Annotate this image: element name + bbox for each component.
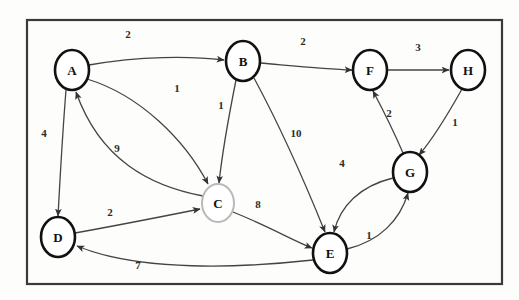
node-label-C: C: [213, 196, 222, 211]
node-label-E: E: [326, 246, 335, 261]
edge-weight-A-D: 4: [41, 127, 47, 139]
edge-weight-A-B: 2: [125, 28, 131, 40]
graph-edge-E-G: [347, 193, 408, 249]
graph-edge-G-E: [334, 178, 393, 232]
edge-weight-A-C: 1: [174, 82, 180, 94]
graph-edge-A-D: [58, 90, 66, 216]
node-label-A: A: [67, 63, 77, 78]
graph-svg: ABCDEFGH 2141102982714231: [0, 0, 519, 300]
graph-edge-A-C: [87, 79, 208, 184]
nodes-layer: ABCDEFGH: [41, 41, 485, 273]
diagram-border: [27, 20, 502, 284]
node-label-H: H: [463, 63, 473, 78]
graph-edge-B-E: [254, 78, 325, 232]
graph-node-E[interactable]: E: [313, 233, 347, 273]
graph-node-F[interactable]: F: [353, 50, 387, 90]
graph-node-B[interactable]: B: [226, 41, 260, 81]
edge-weight-D-C: 2: [107, 206, 113, 218]
edge-weight-E-G: 1: [366, 229, 372, 241]
graph-diagram-canvas: ABCDEFGH 2141102982714231: [0, 0, 519, 300]
graph-edge-C-A: [76, 92, 203, 196]
edge-weight-B-F: 2: [300, 35, 306, 47]
edge-weight-C-E: 8: [255, 198, 261, 210]
graph-node-D[interactable]: D: [41, 217, 75, 257]
edge-weight-G-E: 4: [339, 157, 345, 169]
edge-weight-B-E: 10: [291, 127, 303, 139]
node-label-D: D: [53, 230, 62, 245]
graph-edge-G-F: [373, 91, 403, 153]
graph-node-G[interactable]: G: [393, 152, 427, 192]
graph-edge-E-D: [77, 246, 313, 266]
graph-node-C[interactable]: C: [202, 184, 234, 222]
edge-weight-C-A: 9: [114, 142, 120, 154]
graph-node-H[interactable]: H: [451, 50, 485, 90]
graph-node-A[interactable]: A: [55, 50, 89, 90]
node-label-F: F: [366, 63, 374, 78]
graph-edge-A-B: [89, 57, 224, 65]
edge-weight-F-H: 3: [415, 41, 421, 53]
node-label-G: G: [405, 165, 415, 180]
graph-edge-D-C: [75, 209, 200, 233]
node-label-B: B: [239, 54, 248, 69]
graph-edge-C-E: [233, 212, 312, 248]
graph-edge-B-F: [260, 63, 352, 70]
edge-weight-H-G: 1: [452, 116, 458, 128]
edge-weight-B-C: 1: [218, 99, 224, 111]
edge-weight-E-D: 7: [135, 259, 141, 271]
graph-edge-B-C: [219, 80, 236, 183]
edge-weight-G-F: 2: [386, 107, 392, 119]
